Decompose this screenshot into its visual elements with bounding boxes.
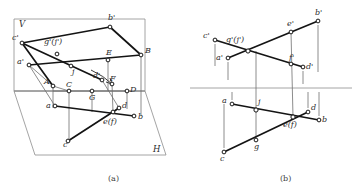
v-plane-label: V <box>19 19 26 29</box>
label-a-d-prime: d' <box>93 71 100 80</box>
label-b-c-prime: c' <box>203 31 210 40</box>
label-b-a: a <box>222 96 227 105</box>
node-d <box>117 106 121 110</box>
label-b-e-prime: e' <box>287 19 294 28</box>
node-b-j <box>254 108 258 112</box>
node-E <box>106 58 110 62</box>
label-b-d: d <box>311 103 316 112</box>
label-b-b: b <box>322 115 327 124</box>
panel-b-group: c' g'(j') e' b' a' f' d' a j d e(f) b g … <box>190 8 352 163</box>
label-b-f-prime: f' <box>288 53 294 62</box>
node-b <box>132 114 136 118</box>
node-b-b <box>317 118 321 122</box>
label-b-g: g <box>254 142 259 151</box>
label-a-b-prime: b' <box>108 13 115 22</box>
label-a-g-j-prime: g'(j') <box>44 37 62 46</box>
node-a-prime <box>27 63 31 67</box>
node-b-e-f <box>291 115 295 119</box>
label-a-E: E <box>105 48 112 57</box>
label-b-j: j <box>256 97 261 106</box>
label-a-a-prime: a' <box>17 57 24 66</box>
label-b-d-prime: d' <box>306 62 313 71</box>
projector-ef-through <box>291 32 293 117</box>
label-a-c-prime: c' <box>12 33 19 42</box>
node-d-prime <box>100 78 104 82</box>
label-a-F: F <box>109 74 116 83</box>
node-b-a-prime <box>226 56 230 60</box>
node-b-g-j-prime <box>246 49 250 53</box>
label-a-b: b <box>138 112 143 121</box>
caption-panel-a: (a) <box>108 174 119 183</box>
technical-drawing-svg: V H c' a' b' g'(j') j E B d' F A C G D a… <box>0 0 357 196</box>
node-a <box>53 104 57 108</box>
label-a-A: A <box>43 77 50 86</box>
node-b-e-prime <box>289 30 293 34</box>
line-cprime-bprime <box>22 27 110 43</box>
label-a-D: D <box>129 85 137 94</box>
node-b-a <box>230 102 234 106</box>
recession-f <box>112 84 113 112</box>
label-a-e-f: e(f) <box>103 117 117 126</box>
node-b-prime <box>108 25 112 29</box>
v-plane-outline <box>14 19 145 91</box>
node-b-d <box>306 110 310 114</box>
label-b-b-prime: b' <box>315 8 322 17</box>
node-g-prime-j-prime <box>55 52 59 56</box>
node-c-prime <box>20 41 24 45</box>
label-a-d: d <box>122 101 127 110</box>
label-b-e-f: e(f) <box>283 120 297 129</box>
label-b-g-j-prime: g'(j') <box>226 35 244 44</box>
node-b-f-prime <box>289 62 293 66</box>
panel-a-group: V H c' a' b' g'(j') j E B d' F A C G D a… <box>12 13 166 155</box>
line-bprime-d-edge <box>110 27 141 55</box>
node-b-b-prime <box>316 19 320 23</box>
line-cprime-dprime <box>22 43 102 80</box>
node-A <box>51 84 55 88</box>
label-b-a-prime: a' <box>216 53 223 62</box>
figure-canvas: V H c' a' b' g'(j') j E B d' F A C G D a… <box>0 0 357 196</box>
label-a-G: G <box>89 93 96 102</box>
node-B <box>139 53 143 57</box>
node-e-f <box>111 110 115 114</box>
node-D <box>125 89 129 93</box>
label-a-B: B <box>144 46 151 55</box>
line-aprime-bprime <box>29 55 141 65</box>
caption-panel-b: (b) <box>280 174 291 183</box>
label-b-c: c <box>220 154 225 163</box>
node-b-c-prime <box>213 38 217 42</box>
node-b-d-prime <box>301 65 305 69</box>
node-C <box>67 89 71 93</box>
label-a-c: c <box>63 140 68 149</box>
label-a-a: a <box>46 101 51 110</box>
h-plane-label: H <box>152 144 161 154</box>
label-a-C: C <box>66 80 72 89</box>
